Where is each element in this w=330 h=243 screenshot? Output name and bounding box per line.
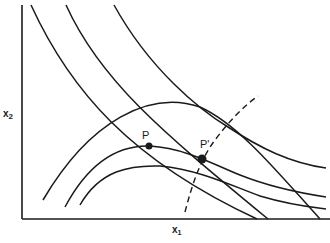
point-p-prime-label: P' (200, 138, 209, 150)
point-p (146, 143, 153, 150)
convex-curve-3 (114, 5, 326, 168)
point-p-label: P (142, 129, 149, 141)
lower-arch-curve (80, 166, 326, 209)
middle-arch-curve (65, 146, 326, 207)
x-axis-label: x1 (172, 224, 182, 236)
dashed-expansion-path (185, 96, 258, 212)
point-p-prime (198, 155, 207, 164)
economics-diagram: P P' x2 x1 (0, 0, 330, 243)
y-axis-label: x2 (3, 108, 14, 121)
